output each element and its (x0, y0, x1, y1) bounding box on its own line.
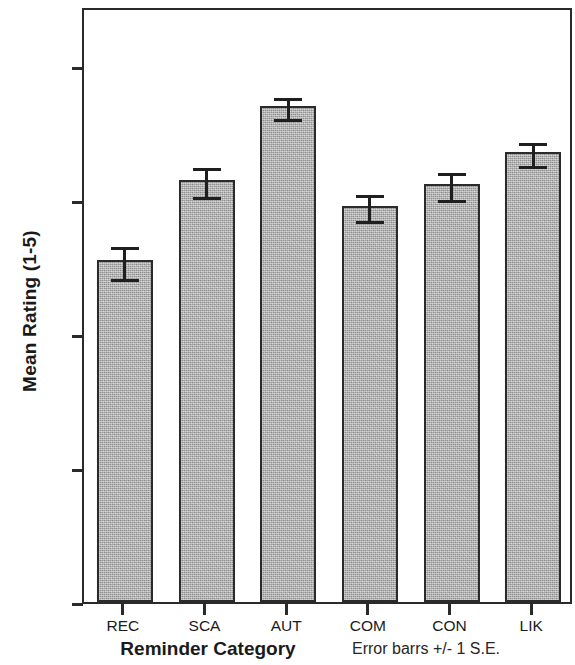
x-tick-mark (121, 604, 124, 615)
bar-texture (181, 182, 233, 600)
error-bar-lik (505, 143, 561, 170)
error-bar-stem (368, 195, 371, 224)
bar-chart-figure: Mean Rating (1-5) 0.001.002.003.004.00 R… (0, 0, 575, 665)
x-tick-mark (203, 604, 206, 615)
error-bar-cap-upper (519, 143, 547, 146)
error-bar-annotation: Error barrs +/- 1 S.E. (352, 640, 572, 658)
error-bar-cap-upper (111, 247, 139, 250)
error-bar-cap-upper (274, 98, 302, 101)
error-bar-cap-lower (356, 221, 384, 224)
error-bar-cap-upper (438, 173, 466, 176)
error-bar-stem (205, 168, 208, 200)
error-bar-cap-lower (519, 166, 547, 169)
y-axis-title: Mean Rating (1-5) (19, 151, 41, 471)
bar-com (342, 206, 398, 602)
error-bar-stem (532, 143, 535, 170)
error-bar-com (342, 195, 398, 224)
bar-lik (505, 152, 561, 602)
error-bar-cap-upper (193, 168, 221, 171)
error-bar-stem (123, 247, 126, 282)
bar-texture (507, 154, 559, 600)
x-tick-label: LIK (483, 617, 575, 635)
error-bar-stem (450, 173, 453, 202)
error-bar-aut (260, 98, 316, 122)
bar-con (424, 184, 480, 602)
error-bar-sca (179, 168, 235, 200)
error-bar-con (424, 173, 480, 202)
plot-area (82, 8, 572, 604)
bar-texture (262, 108, 314, 600)
bar-aut (260, 106, 316, 602)
x-tick-mark (366, 604, 369, 615)
bar-texture (99, 262, 151, 600)
x-tick-mark (285, 604, 288, 615)
error-bar-cap-lower (438, 200, 466, 203)
error-bar-rec (97, 247, 153, 282)
error-bar-cap-upper (356, 195, 384, 198)
bar-texture (426, 186, 478, 600)
bar-texture (344, 208, 396, 600)
x-tick-mark (448, 604, 451, 615)
bar-sca (179, 180, 235, 602)
bar-series (84, 10, 570, 602)
error-bar-cap-lower (111, 279, 139, 282)
x-tick-mark (530, 604, 533, 615)
error-bar-cap-lower (193, 197, 221, 200)
error-bar-cap-lower (274, 119, 302, 122)
bar-rec (97, 260, 153, 602)
x-axis-title: Reminder Category (82, 638, 334, 660)
